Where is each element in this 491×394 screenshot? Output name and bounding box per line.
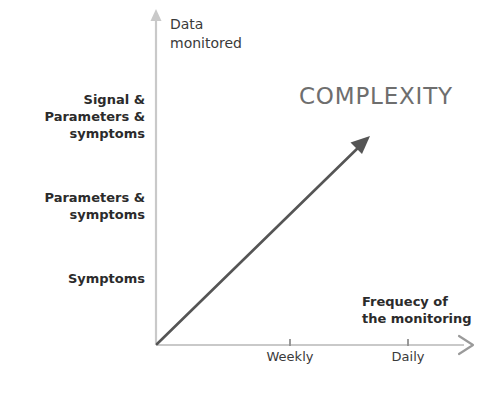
- complexity-trend-arrow-shaft: [157, 143, 363, 344]
- y-axis-arrowhead: [151, 9, 162, 21]
- complexity-trend-arrowhead: [351, 136, 371, 154]
- complexity-diagram: Data monitored Signal & Parameters & sym…: [0, 0, 491, 394]
- y-tick-label-parameters-symptoms: Parameters & symptoms: [44, 189, 145, 223]
- complexity-annotation: COMPLEXITY: [299, 83, 453, 109]
- x-axis-title: Frequecy of the monitoring: [362, 293, 472, 327]
- x-tick-label-weekly: Weekly: [245, 349, 335, 364]
- y-tick-label-symptoms: Symptoms: [68, 270, 145, 287]
- y-axis-title: Data monitored: [170, 15, 242, 53]
- x-tick-label-daily: Daily: [363, 349, 453, 364]
- y-tick-label-signal-parameters-symptoms: Signal & Parameters & symptoms: [44, 91, 145, 142]
- x-axis-arrowhead: [459, 336, 473, 354]
